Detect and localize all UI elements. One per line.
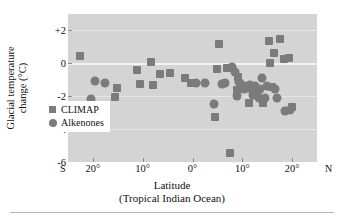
x-axis-title-sub: (Tropical Indian Ocean) — [0, 192, 344, 205]
y-axis-title: Glacial temperature change (°C) — [2, 14, 32, 162]
data-point-climap — [213, 65, 221, 73]
x-tick-label--20: 20° — [86, 163, 101, 174]
y-tick-label-+2: +2 — [42, 25, 66, 36]
data-point-climap — [113, 84, 121, 92]
footer-rule — [10, 212, 334, 213]
data-point-climap — [265, 37, 273, 45]
chart-legend: CLIMAP Alkenones — [45, 101, 110, 132]
x-tick-label-10: 10° — [235, 163, 250, 174]
data-point-climap — [133, 66, 141, 74]
x-axis-start-label: S — [60, 163, 66, 174]
data-point-alkenones — [201, 79, 210, 88]
plot-area — [68, 14, 317, 162]
data-point-alkenones — [233, 92, 242, 101]
x-axis-end-label: N — [325, 163, 332, 174]
data-point-alkenones — [192, 79, 201, 88]
circle-marker-icon — [49, 119, 57, 127]
x-tick-label-20: 20° — [285, 163, 300, 174]
data-point-climap — [156, 70, 164, 78]
x-axis-title: Latitude (Tropical Indian Ocean) — [0, 179, 344, 205]
data-point-climap — [270, 49, 278, 57]
x-tick-mark — [193, 158, 194, 162]
data-point-climap — [76, 52, 84, 60]
data-point-climap — [285, 54, 293, 62]
x-axis-title-main: Latitude — [154, 179, 191, 191]
data-point-climap — [245, 99, 253, 107]
gridline-y-0 — [68, 63, 317, 65]
data-point-climap — [276, 35, 284, 43]
data-point-alkenones — [100, 79, 109, 88]
data-point-climap — [147, 58, 155, 66]
data-point-alkenones — [271, 84, 280, 93]
gridline-y-+2 — [68, 30, 317, 31]
x-tick-mark — [242, 158, 243, 162]
y-axis-title-line2: change (°C) — [17, 46, 29, 129]
data-point-alkenones — [273, 93, 282, 102]
y-tick-mark — [68, 63, 72, 64]
x-axis-ticks: 20°10°0°10°20° — [68, 163, 317, 177]
data-point-alkenones — [231, 67, 240, 76]
legend-label-climap: CLIMAP — [61, 104, 99, 115]
data-point-alkenones — [286, 106, 295, 115]
chart-figure: Glacial temperature change (°C) +20-2-4-… — [0, 0, 344, 217]
data-point-climap — [226, 149, 234, 157]
legend-label-alkenones: Alkenones — [61, 117, 104, 128]
legend-item-climap: CLIMAP — [49, 103, 104, 116]
x-tick-mark — [93, 158, 94, 162]
x-tick-label--10: 10° — [135, 163, 150, 174]
x-tick-mark — [292, 158, 293, 162]
y-tick-mark — [68, 96, 72, 97]
data-point-climap — [215, 40, 223, 48]
data-point-alkenones — [210, 99, 219, 108]
data-point-climap — [136, 80, 144, 88]
data-point-climap — [211, 113, 219, 121]
data-point-alkenones — [218, 79, 227, 88]
x-tick-mark — [143, 158, 144, 162]
y-tick-label-0: 0 — [42, 58, 66, 69]
data-point-alkenones — [261, 93, 270, 102]
y-axis-title-line1: Glacial temperature — [5, 46, 16, 129]
data-point-climap — [111, 93, 119, 101]
square-marker-icon — [49, 106, 56, 113]
data-point-climap — [266, 59, 274, 67]
x-tick-label-0: 0° — [188, 163, 197, 174]
legend-item-alkenones: Alkenones — [49, 116, 104, 129]
data-point-climap — [166, 69, 174, 77]
data-point-alkenones — [90, 77, 99, 86]
data-point-climap — [149, 81, 157, 89]
y-tick-mark — [68, 30, 72, 31]
